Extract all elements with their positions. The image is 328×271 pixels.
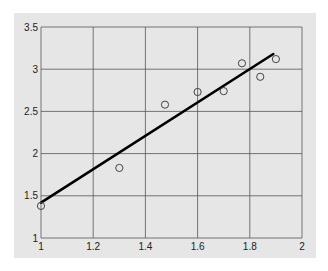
scatter-chart: 11.522.533.5 11.21.41.61.82 [0, 0, 328, 271]
data-point-marker [272, 55, 279, 62]
y-tick-label: 1.5 [24, 190, 38, 201]
data-point-marker [116, 164, 123, 171]
data-point-marker [161, 101, 168, 108]
grid-lines [41, 27, 302, 238]
x-tick-label: 1.4 [138, 241, 152, 252]
data-point-marker [220, 88, 227, 95]
y-tick-label: 2.5 [24, 106, 38, 117]
y-tick-label: 3.5 [24, 22, 38, 33]
regression-line [41, 54, 273, 203]
data-point-marker [257, 73, 264, 80]
x-tick-label: 1.6 [191, 241, 205, 252]
fit-line [41, 54, 273, 203]
y-axis-ticks: 11.522.533.5 [24, 22, 38, 244]
y-tick-label: 2 [32, 148, 38, 159]
x-tick-label: 1 [38, 241, 44, 252]
x-tick-label: 2 [299, 241, 305, 252]
data-points [37, 55, 279, 209]
y-tick-label: 3 [32, 64, 38, 75]
data-point-marker [238, 60, 245, 67]
x-axis-ticks: 11.21.41.61.82 [38, 241, 305, 252]
x-tick-label: 1.2 [86, 241, 100, 252]
x-tick-label: 1.8 [243, 241, 257, 252]
